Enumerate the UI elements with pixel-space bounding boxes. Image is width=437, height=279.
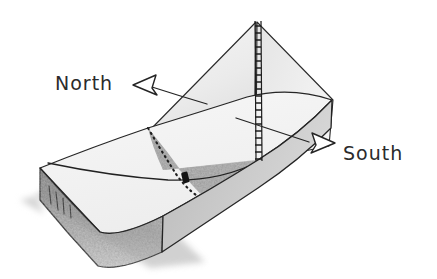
sketch-canvas: North South (0, 0, 437, 279)
block-diagram-svg: North South (0, 0, 437, 279)
south-label: South (343, 142, 403, 164)
north-label: North (55, 72, 113, 94)
arrow-left-outline-icon (133, 75, 157, 95)
